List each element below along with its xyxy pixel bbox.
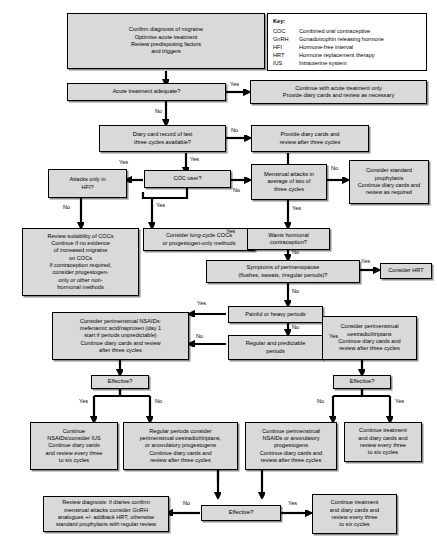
node-label: Review diagnosis: if diaries confirmmens… [46, 499, 166, 529]
key-legend: Key: COC Combined oral contraceptive GnR… [267, 13, 427, 71]
node-label: Consider long-cycle COCsor progestogen-o… [146, 232, 252, 247]
node-consider-standard-prophylaxis: Consider standardprophylaxisContinue dia… [349, 160, 429, 204]
edge-label-wants-yes: Yes [226, 229, 235, 235]
key-meaning: Hormone replacement therapy [299, 52, 375, 60]
edge-label-effective-right-no: No [317, 399, 324, 405]
edge-label-effective-left-no: No [155, 399, 162, 405]
node-label: Effective? [336, 378, 388, 385]
key-abbr: GnRH [273, 36, 299, 44]
key-abbr: HRT [273, 52, 299, 60]
key-meaning: Intrauterine system [299, 60, 347, 68]
node-acute-treatment-adequate: Acute treatment adequate? [67, 83, 226, 101]
node-label: Painful or heavy periods [231, 311, 320, 318]
node-regular-periods-consider: Regular periods considerperimenstrual oe… [123, 422, 238, 470]
node-label: Menstrual attacks inaverage of two ofthr… [254, 171, 324, 193]
key-entry-coc: COC Combined oral contraceptive [273, 28, 421, 36]
node-effective-bottom: Effective? [201, 505, 281, 521]
node-symptoms-of-perimenopause: Symptoms of perimenopause(flushes, sweat… [206, 260, 360, 283]
edge-label-acute-yes: Yes [230, 82, 239, 88]
node-continue-acute-treatment: Continue with acute treatment onlyProvid… [250, 80, 427, 104]
node-painful-or-heavy-periods: Painful or heavy periods [228, 306, 323, 323]
node-provide-diary-cards: Provide diary cards andreview after thre… [251, 125, 369, 152]
node-effective-left: Effective? [91, 375, 149, 389]
key-entry-gnrh: GnRH Gonadotrophin releasing hormone [273, 36, 421, 44]
flowchart-canvas: Key: COC Combined oral contraceptive GnR… [0, 0, 437, 546]
edge-label-menstrual-no: No [331, 166, 338, 172]
edge-label-effective-bottom-yes: Yes [288, 501, 297, 507]
edge-label-painful-no: No [292, 325, 299, 331]
node-regular-and-predictable-periods: Regular and predictableperiods [228, 335, 323, 360]
node-label: Consider standardprophylaxisContinue dia… [352, 167, 426, 197]
node-label: Symptoms of perimenopause(flushes, sweat… [209, 264, 357, 279]
node-label: Continue treatmentand diary cards andrev… [347, 427, 419, 457]
edge-label-painful-yes: Yes [197, 301, 206, 307]
node-label: Continue with acute treatment onlyProvid… [253, 85, 424, 100]
edge-label-diary-yes: Yes [190, 157, 199, 163]
edge-label-perimenopause-no: No [292, 289, 299, 295]
node-label: Regular periods considerperimenstrual oe… [126, 428, 235, 465]
edge-label-regular-no: No [196, 334, 203, 340]
edge-label-regular-yes: Yes [329, 334, 338, 340]
key-abbr: IUS [273, 60, 299, 68]
node-label: Consider perimenstrualoestradiol/triptan… [325, 323, 414, 353]
node-label: Provide diary cards andreview after thre… [254, 131, 366, 146]
node-effective-right: Effective? [333, 375, 391, 389]
node-label: COC user? [147, 175, 228, 182]
key-entry-hfi: HFI Hormone-free interval [273, 44, 421, 52]
node-attacks-only-in-hfi: Attacks only inHFI? [48, 169, 127, 198]
edge-label-coc-yes-left: Yes [119, 160, 128, 166]
node-review-diagnosis: Review diagnosis: if diaries confirmmens… [43, 496, 169, 532]
node-menstrual-attacks-average: Menstrual attacks inaverage of two ofthr… [251, 164, 327, 200]
edge-label-coc-no: No [233, 188, 240, 194]
edge-label-perimenopause-yes: Yes [361, 259, 370, 265]
node-consider-perimenstrual-nsaids: Consider perimenstrual NSAIDs:mefenamic … [52, 312, 189, 360]
node-label: Diary card record of lastthree cycles av… [102, 131, 223, 146]
node-start: Confirm diagnosis of migraineOptimise ac… [67, 13, 265, 69]
node-label: Continue treatmentand diary cards andrev… [315, 499, 394, 529]
edge-label-effective-right-yes: Yes [395, 399, 404, 405]
key-title: Key: [273, 18, 421, 26]
node-consider-long-cycle-cocs: Consider long-cycle COCsor progestogen-o… [143, 228, 255, 251]
key-abbr: HFI [273, 44, 299, 52]
edge-label-diary-no: No [231, 128, 238, 134]
edge-label-effective-left-yes: Yes [79, 399, 88, 405]
node-start-label: Confirm diagnosis of migraineOptimise ac… [70, 26, 262, 56]
node-label: Continue perimenstrualNSAIDs or anovulat… [248, 428, 334, 465]
node-label: Regular and predictableperiods [231, 340, 320, 355]
key-abbr: COC [273, 28, 299, 36]
edge-label-hfi-no: No [63, 205, 70, 211]
edge-label-effective-bottom-no: No [183, 501, 190, 507]
node-label: Review suitability of COCsContinue if no… [25, 233, 136, 292]
node-label: Effective? [94, 378, 146, 385]
key-meaning: Hormone-free interval [299, 44, 353, 52]
node-label: ContinueNSAIDs/consider IUSContinue diar… [33, 428, 115, 465]
key-entry-hrt: HRT Hormone replacement therapy [273, 52, 421, 60]
edge-label-menstrual-yes: Yes [292, 206, 301, 212]
key-meaning: Combined oral contraceptive [299, 28, 370, 36]
key-meaning: Gonadotrophin releasing hormone [299, 36, 384, 44]
node-review-suitability-of-cocs: Review suitability of COCsContinue if no… [22, 228, 139, 296]
edge-label-wants-no: No [292, 250, 299, 256]
node-continue-perimenstrual-nsaids: Continue perimenstrualNSAIDs or anovulat… [245, 422, 337, 470]
node-label: Attacks only inHFI? [51, 176, 124, 191]
edge-label-coc-yes-down: Yes [156, 203, 165, 209]
node-label: Consider HRT [383, 267, 429, 274]
node-continue-nsaids-consider-ius: ContinueNSAIDs/consider IUSContinue diar… [30, 422, 118, 470]
node-label: Consider perimenstrual NSAIDs:mefenamic … [55, 318, 186, 355]
node-label: Effective? [204, 509, 278, 516]
node-label: Wants hormonalcontraception? [250, 232, 327, 247]
node-continue-treatment-right: Continue treatmentand diary cards andrev… [344, 422, 422, 462]
node-continue-treatment-bottom: Continue treatmentand diary cards andrev… [312, 494, 397, 534]
node-coc-user: COC user? [144, 170, 231, 188]
node-label: Acute treatment adequate? [70, 88, 223, 95]
edge-label-acute-no: No [155, 109, 162, 115]
node-consider-hrt: Consider HRT [380, 263, 432, 279]
node-wants-hormonal-contraception: Wants hormonalcontraception? [247, 228, 330, 250]
key-entry-ius: IUS Intrauterine system [273, 60, 421, 68]
node-diary-card-record: Diary card record of lastthree cycles av… [99, 125, 226, 152]
